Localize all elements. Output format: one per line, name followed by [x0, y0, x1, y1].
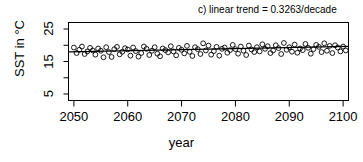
data-point	[244, 53, 249, 58]
data-point	[174, 53, 179, 58]
data-point	[338, 49, 343, 54]
data-point	[217, 53, 222, 58]
data-point	[128, 53, 133, 58]
data-point	[330, 51, 335, 56]
data-point	[322, 41, 327, 46]
data-point	[106, 50, 111, 55]
data-points	[71, 41, 348, 60]
x-axis-label: year	[0, 135, 363, 150]
plot-frame	[69, 23, 349, 101]
data-point	[281, 41, 286, 46]
data-point	[343, 48, 348, 53]
x-tick-label: 2060	[106, 109, 150, 124]
data-point	[93, 52, 98, 57]
sst-scatter-figure: c) linear trend = 0.3263/decade SST in °…	[0, 0, 363, 162]
data-point	[71, 45, 76, 50]
data-point	[104, 45, 109, 50]
y-tick-label: 5	[40, 79, 55, 109]
data-point	[273, 43, 278, 48]
x-tick-label: 2080	[213, 109, 257, 124]
data-point	[182, 51, 187, 56]
data-point	[168, 44, 173, 49]
data-point	[308, 51, 313, 56]
data-point	[101, 55, 106, 60]
x-tick-label: 2100	[321, 109, 363, 124]
data-point	[325, 48, 330, 53]
data-point	[198, 52, 203, 57]
y-tick-label: 25	[40, 14, 55, 44]
x-tick-label: 2090	[267, 109, 311, 124]
y-axis-label: SST in °C	[12, 9, 27, 89]
data-point	[319, 50, 324, 55]
data-point	[185, 44, 190, 49]
data-point	[292, 42, 297, 47]
data-point	[236, 51, 241, 56]
data-point	[80, 44, 85, 49]
x-tick-label: 2070	[160, 109, 204, 124]
data-point	[257, 49, 262, 54]
y-axis-ticks	[64, 29, 69, 94]
data-point	[152, 45, 157, 50]
x-tick-label: 2050	[52, 109, 96, 124]
chart-title: c) linear trend = 0.3263/decade	[198, 4, 337, 15]
data-point	[206, 43, 211, 48]
data-point	[139, 51, 144, 56]
data-point	[109, 55, 114, 60]
data-point	[190, 54, 195, 59]
data-point	[201, 41, 206, 46]
y-tick-label: 15	[40, 46, 55, 76]
data-point	[327, 44, 332, 49]
x-axis-ticks	[74, 101, 343, 107]
data-point	[290, 49, 295, 54]
data-point	[306, 45, 311, 50]
data-point	[279, 52, 284, 57]
data-point	[260, 42, 265, 47]
